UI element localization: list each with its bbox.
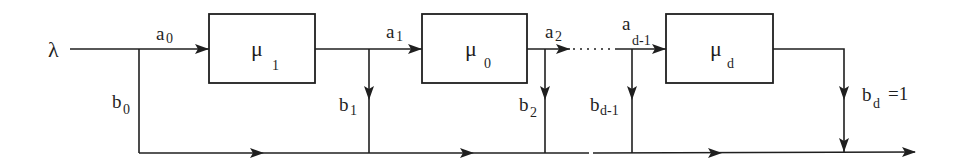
flow-label-a1-sub: 1 <box>396 29 403 44</box>
output-line-bd <box>773 49 844 152</box>
flow-label-bd-base: b <box>862 84 872 105</box>
flow-label-a0-sub: 0 <box>166 31 173 46</box>
flow-label-a0-base: a <box>156 23 165 44</box>
flow-label-ad1-base: a <box>622 13 631 34</box>
flow-label-b0-base: b <box>112 91 122 112</box>
flow-label-b1-base: b <box>339 94 349 115</box>
flow-label-ad1-sub: d-1 <box>632 33 651 48</box>
flow-label-bd-suffix: =1 <box>888 83 908 104</box>
flow-label-a2-sub: 2 <box>555 29 562 44</box>
flow-label-bd1-base: b <box>590 94 600 115</box>
flow-label-bd-sub: d <box>873 96 880 111</box>
flow-label-b2-base: b <box>519 94 529 115</box>
input-label-lambda: λ <box>48 37 59 62</box>
flow-label-a2-base: a <box>545 21 554 42</box>
flow-label-b2-sub: 2 <box>530 105 537 120</box>
flow-label-bd1-sub: d-1 <box>600 103 619 118</box>
collector-line-right <box>593 152 915 153</box>
flow-label-b0-sub: 0 <box>123 102 130 117</box>
flow-label-a1-base: a <box>386 21 395 42</box>
station-1-subscript: 1 <box>272 58 279 73</box>
flow-label-b1-sub: 1 <box>350 103 357 118</box>
station-3-subscript: d <box>727 56 734 71</box>
station-3-symbol: μ <box>710 36 722 61</box>
queueing-diagram: λ μ 1 μ 0 μ d a 0 a 1 a 2 a d-1 b 0 b 1 … <box>0 0 954 168</box>
station-2-symbol: μ <box>465 36 477 61</box>
station-1-symbol: μ <box>251 36 263 61</box>
station-2-subscript: 0 <box>484 56 491 71</box>
